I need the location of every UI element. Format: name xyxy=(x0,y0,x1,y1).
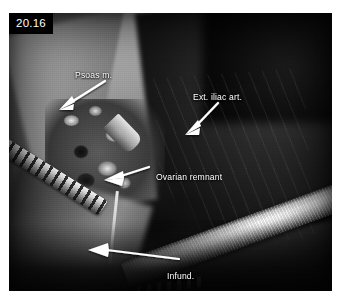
label-psoas-muscle: Psoas m. xyxy=(75,70,112,81)
surgical-photograph: Psoas m. Ext. iliac art. Ovarian remnant… xyxy=(9,13,332,291)
arrow-infundibulopelvic-ligament xyxy=(88,243,179,259)
label-external-iliac-artery: Ext. iliac art. xyxy=(193,92,242,103)
figure-number-badge: 20.16 xyxy=(9,13,53,34)
arrow-external-iliac-artery xyxy=(185,103,218,135)
arrow-psoas-muscle xyxy=(59,81,105,110)
label-infundibulopelvic-ligament: Infund. pelvic lig. xyxy=(167,250,204,291)
figure-page: Psoas m. Ext. iliac art. Ovarian remnant… xyxy=(0,0,337,297)
label-infund-line1: Infund. xyxy=(167,271,204,282)
label-ovarian-remnant: Ovarian remnant xyxy=(156,172,222,183)
arrow-ovarian-remnant xyxy=(104,167,149,186)
